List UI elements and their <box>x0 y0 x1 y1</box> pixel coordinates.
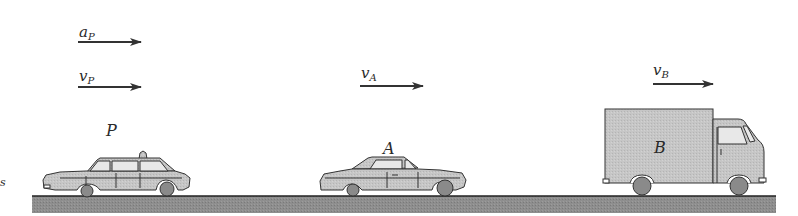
svg-text:vA: vA <box>361 64 377 83</box>
vehicle-b-truck: B <box>603 109 766 195</box>
edge-mark: s <box>0 176 6 189</box>
svg-text:vB: vB <box>653 61 669 80</box>
vehicle-p-label: P <box>105 121 117 140</box>
vector-v-b: vB <box>653 61 713 84</box>
wheel-icon <box>347 184 359 196</box>
vector-v-p-subscript: P <box>86 75 94 86</box>
wheel-icon <box>633 177 651 195</box>
vehicle-b-label: B <box>653 138 666 157</box>
vector-a-p-symbol: a <box>79 23 88 41</box>
ground <box>32 196 776 213</box>
wheel-icon <box>437 180 453 196</box>
vehicle-p-taxi: P <box>43 121 190 197</box>
relative-motion-diagram: s aP vP vA vB P <box>0 0 798 216</box>
vehicle-a-car: A <box>320 139 466 196</box>
vector-v-b-subscript: B <box>660 69 668 80</box>
vector-v-a-subscript: A <box>368 72 376 83</box>
wheel-icon <box>160 182 174 196</box>
vector-v-p: vP <box>78 67 141 87</box>
svg-text:vP: vP <box>79 67 94 86</box>
vector-a-p-subscript: P <box>87 31 95 42</box>
svg-text:aP: aP <box>79 23 95 42</box>
vehicle-a-label: A <box>381 139 395 158</box>
vector-v-a: vA <box>360 64 423 86</box>
wheel-icon <box>730 177 748 195</box>
vector-a-p: aP <box>78 23 141 42</box>
wheel-icon <box>81 185 93 197</box>
